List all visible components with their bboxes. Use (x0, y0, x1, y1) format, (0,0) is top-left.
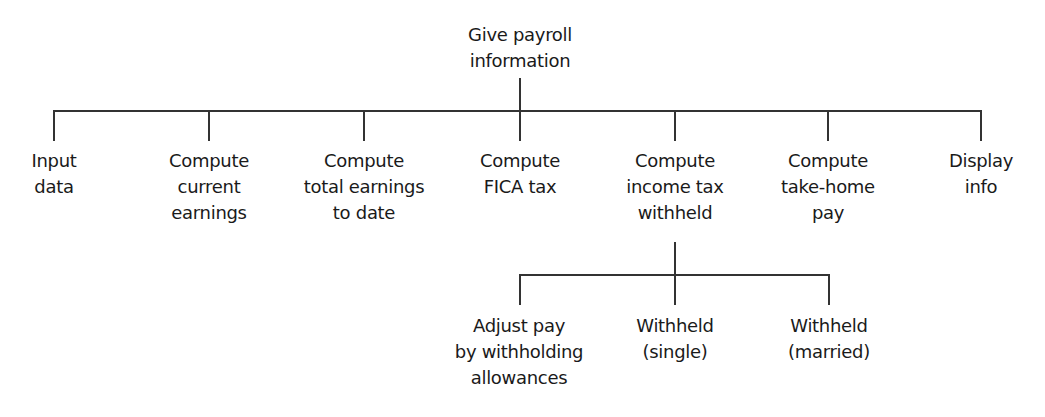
node-withheld-single: Withheld (single) (636, 313, 713, 365)
connector-input-data (53, 110, 55, 141)
connector-current-earnings (208, 110, 210, 141)
connector-adjust-pay (519, 274, 521, 305)
node-withheld-married: Withheld (married) (788, 313, 870, 365)
connector-take-home (827, 110, 829, 141)
income-tax-down-connector (674, 242, 676, 274)
node-input-data: Input data (31, 148, 76, 200)
node-compute-income-tax-withheld: Compute income tax withheld (626, 148, 723, 226)
connector-display-info (980, 110, 982, 141)
connector-fica-tax (519, 110, 521, 141)
node-compute-fica-tax: Compute FICA tax (480, 148, 560, 200)
node-compute-take-home-pay: Compute take-home pay (781, 148, 875, 226)
node-compute-current-earnings: Compute current earnings (169, 148, 249, 226)
node-display-info: Display info (949, 148, 1013, 200)
connector-withheld-married (828, 274, 830, 305)
connector-total-earnings (363, 110, 365, 141)
root-connector (519, 78, 521, 110)
node-adjust-pay-by-withholding-allowances: Adjust pay by withholding allowances (455, 313, 583, 391)
connector-income-tax (674, 110, 676, 141)
node-compute-total-earnings-to-date: Compute total earnings to date (304, 148, 425, 226)
root-node-give-payroll-information: Give payroll information (468, 22, 572, 74)
level1-bus (53, 110, 981, 112)
connector-withheld-single (674, 274, 676, 305)
